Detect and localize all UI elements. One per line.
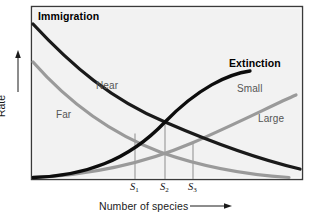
equilibrium-label-s1: S1 [130, 181, 139, 192]
x-axis-title: Number of species [99, 200, 188, 212]
curve-label-near: Near [96, 80, 118, 91]
figure-container: Rate Number of species Immigration Extin… [0, 0, 316, 222]
equilibrium-label-s3: S3 [188, 181, 197, 192]
equilibrium-label-s2-subscript: 2 [165, 186, 169, 194]
curve-label-far: Far [56, 109, 71, 120]
curve-label-extinction: Extinction [229, 57, 281, 69]
y-axis-title-container: Rate [2, 92, 16, 132]
chart-canvas [0, 0, 316, 222]
equilibrium-label-s3-subscript: 3 [193, 186, 197, 194]
curve-label-large: Large [258, 113, 284, 124]
y-axis-arrow-icon [15, 50, 21, 92]
curve-label-immigration: Immigration [38, 10, 99, 22]
curve-label-small: Small [237, 83, 263, 94]
y-axis-title: Rate [0, 95, 7, 117]
equilibrium-label-s1-subscript: 1 [135, 186, 139, 194]
equilibrium-label-s2: S2 [160, 181, 169, 192]
x-axis-arrow-icon [190, 203, 232, 209]
